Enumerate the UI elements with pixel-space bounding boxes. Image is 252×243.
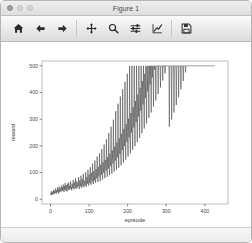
- reward-vs-episode-plot: 01002003004000100200300400500episoderewa…: [1, 42, 252, 227]
- x-tick-label: 300: [162, 208, 171, 214]
- back-arrow-icon[interactable]: [29, 18, 51, 40]
- subplot-sliders-icon[interactable]: [124, 18, 146, 40]
- navigation-toolbar: [1, 16, 251, 42]
- y-tick-label: 300: [29, 116, 38, 122]
- x-tick-label: 200: [123, 208, 132, 214]
- toolbar-separator-2: [171, 20, 172, 37]
- matplotlib-figure[interactable]: 01002003004000100200300400500episoderewa…: [1, 42, 252, 227]
- x-axis-label: episode: [125, 217, 145, 223]
- y-tick-label: 0: [35, 196, 38, 202]
- y-tick-label: 200: [29, 143, 38, 149]
- y-tick-label: 400: [29, 89, 38, 95]
- home-icon[interactable]: [7, 18, 29, 40]
- y-axis-label: reward: [10, 124, 16, 142]
- x-tick-label: 0: [49, 208, 52, 214]
- pan-move-icon[interactable]: [80, 18, 102, 40]
- save-floppy-icon[interactable]: [175, 18, 197, 40]
- toolbar-group-file: [175, 16, 197, 41]
- y-tick-label: 500: [29, 63, 38, 69]
- figure-window: Figure 1: [0, 0, 252, 243]
- x-tick-label: 400: [201, 208, 210, 214]
- magnifier-zoom-icon[interactable]: [102, 18, 124, 40]
- toolbar-group-tools: [80, 16, 168, 41]
- x-tick-label: 100: [85, 208, 94, 214]
- figure-canvas-area[interactable]: 01002003004000100200300400500episoderewa…: [1, 42, 251, 228]
- forward-arrow-icon[interactable]: [51, 18, 73, 40]
- status-bar: [1, 228, 251, 242]
- window-titlebar: Figure 1: [1, 1, 251, 16]
- toolbar-separator-1: [76, 20, 77, 37]
- window-title: Figure 1: [1, 3, 251, 14]
- toolbar-group-navigation: [7, 16, 73, 41]
- y-tick-label: 100: [29, 169, 38, 175]
- edit-curve-icon[interactable]: [146, 18, 168, 40]
